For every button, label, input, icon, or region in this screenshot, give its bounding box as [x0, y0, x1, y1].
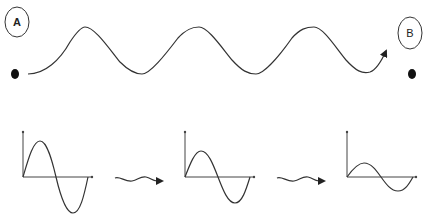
wave-attenuation-diagram: A B [0, 0, 428, 214]
point-b-dot [408, 69, 416, 79]
point-b: B [398, 17, 422, 79]
main-wave [28, 27, 386, 74]
graph-2 [184, 131, 255, 203]
graph-1 [22, 131, 93, 213]
graph-3 [346, 131, 417, 191]
point-b-label: B [406, 27, 413, 39]
point-a-dot [11, 69, 19, 79]
wavy-arrow-1-icon [115, 177, 162, 181]
point-a: A [5, 7, 29, 79]
point-a-label: A [13, 16, 21, 28]
wavy-arrow-2-icon [277, 177, 324, 181]
